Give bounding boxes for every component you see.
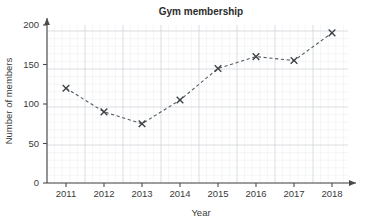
- y-tick-label: 50: [28, 138, 39, 149]
- page-title: Gym membership: [159, 6, 243, 17]
- y-tick-label: 150: [23, 59, 39, 70]
- y-axis-title: Number of members: [3, 57, 14, 144]
- chart-container: 050100150200 201120122013201420152016201…: [0, 0, 366, 222]
- x-tick-label: 2013: [131, 188, 152, 199]
- x-tick-label: 2012: [93, 188, 114, 199]
- x-tick-label: 2015: [207, 188, 228, 199]
- x-tick-label: 2014: [169, 188, 190, 199]
- x-tick-label: 2016: [245, 188, 266, 199]
- x-tick-label: 2018: [321, 188, 342, 199]
- y-tick-label: 0: [34, 177, 39, 188]
- y-tick-label: 200: [23, 19, 39, 30]
- x-axis-title: Year: [191, 207, 210, 218]
- x-tick-label: 2017: [283, 188, 304, 199]
- x-tick-label: 2011: [56, 188, 76, 199]
- gym-membership-line-chart: 050100150200 201120122013201420152016201…: [0, 0, 366, 222]
- y-tick-label: 100: [23, 98, 39, 109]
